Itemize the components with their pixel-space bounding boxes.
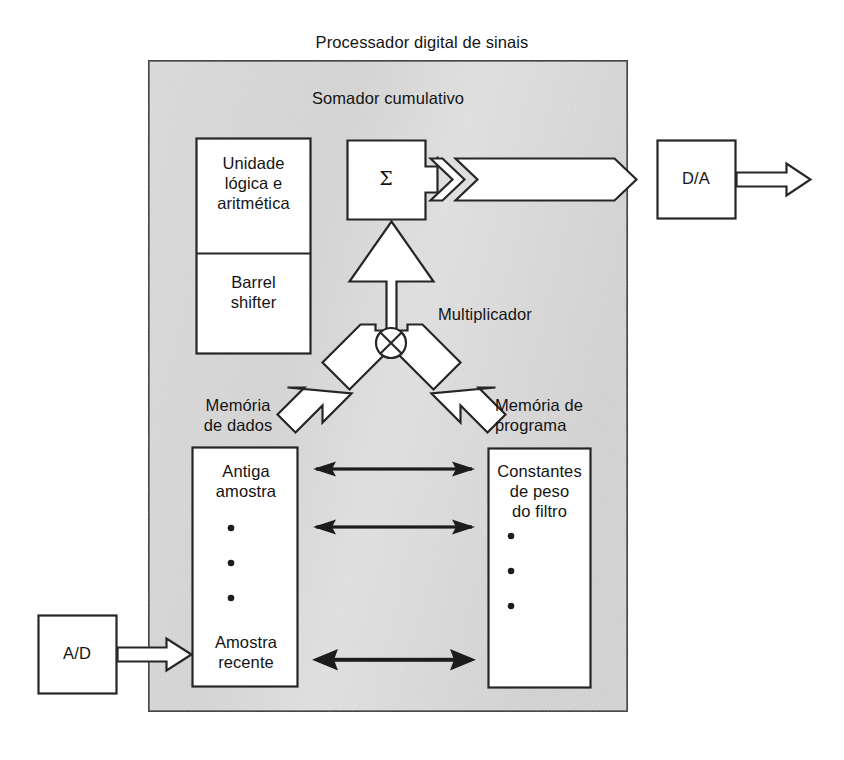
program-memory-dot-2 xyxy=(508,568,515,575)
program-memory-top-entry-label: Constantes de peso do filtro xyxy=(489,461,590,521)
barrel-shifter-label: Barrel shifter xyxy=(196,272,311,312)
multiplier-label: Multiplicador xyxy=(438,304,588,324)
alu-label: Unidade lógica e aritmética xyxy=(196,153,311,213)
dsp-block-diagram xyxy=(0,0,844,760)
accumulator-to-dac-arrow xyxy=(431,159,637,201)
dac-output-arrow xyxy=(737,164,811,196)
data-memory-dot-3 xyxy=(228,595,235,602)
data-memory-bottom-entry-label: Amostra recente xyxy=(196,632,296,672)
program-memory-dot-3 xyxy=(508,603,515,610)
accumulator-sigma-label: Σ xyxy=(347,167,425,190)
program-memory-dot-1 xyxy=(508,533,515,540)
data-memory-dot-2 xyxy=(228,560,235,567)
program-memory-label: Memória de programa xyxy=(495,395,625,435)
adc-label: A/D xyxy=(38,643,116,663)
dac-label: D/A xyxy=(657,168,735,188)
data-memory-top-entry-label: Antiga amostra xyxy=(196,461,296,501)
page-title: Processador digital de sinais xyxy=(0,32,844,52)
data-memory-label: Memória de dados xyxy=(178,395,298,435)
data-memory-dot-1 xyxy=(228,525,235,532)
panel-title-somador-cumulativo: Somador cumulativo xyxy=(148,88,628,108)
